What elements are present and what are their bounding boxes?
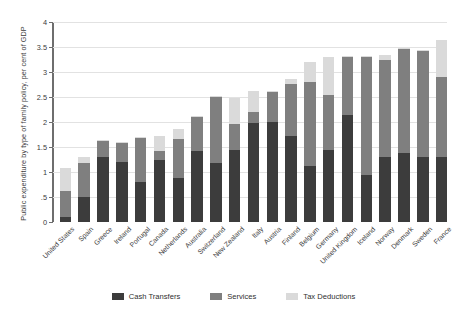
y-axis-tick-label: .5 bbox=[17, 193, 47, 202]
legend-label: Services bbox=[227, 292, 256, 301]
y-axis-tick-label: 2 bbox=[17, 118, 47, 127]
y-axis-tick-label: 1.5 bbox=[17, 143, 47, 152]
legend-swatch-cash bbox=[112, 293, 124, 300]
bar-finland[interactable] bbox=[285, 79, 297, 223]
legend-swatch-tax bbox=[286, 293, 298, 300]
x-axis-labels: United StatesSpainGreeceIrelandPortugalC… bbox=[52, 224, 447, 284]
bar-segment-services bbox=[285, 84, 297, 137]
bar-segment-tax bbox=[154, 136, 166, 151]
bar-denmark[interactable] bbox=[398, 48, 410, 222]
bar-segment-services bbox=[229, 124, 241, 150]
bar-greece[interactable] bbox=[97, 140, 109, 222]
bar-france[interactable] bbox=[436, 40, 448, 223]
bar-segment-cash bbox=[60, 217, 72, 222]
bar-segment-services bbox=[97, 141, 109, 157]
bar-segment-tax bbox=[248, 91, 260, 112]
bar-segment-tax bbox=[173, 129, 185, 139]
bar-segment-services bbox=[417, 51, 429, 157]
bar-belgium[interactable] bbox=[304, 62, 316, 222]
y-axis-tick-label: 3 bbox=[17, 68, 47, 77]
bar-segment-services bbox=[361, 57, 373, 175]
bar-segment-services bbox=[60, 191, 72, 217]
y-axis-tick-label: 0 bbox=[17, 218, 47, 227]
bar-segment-services bbox=[267, 92, 279, 122]
bar-segment-services bbox=[436, 77, 448, 157]
bar-sweden[interactable] bbox=[417, 50, 429, 222]
bar-segment-services bbox=[210, 97, 222, 163]
bar-segment-cash bbox=[267, 122, 279, 222]
legend-item-services[interactable]: Services bbox=[210, 292, 256, 301]
y-axis-tick-label: 3.5 bbox=[17, 43, 47, 52]
chart-legend: Cash TransfersServicesTax Deductions bbox=[0, 292, 467, 301]
legend-label: Tax Deductions bbox=[303, 292, 355, 301]
bar-united-kingdom[interactable] bbox=[342, 56, 354, 222]
bar-segment-services bbox=[248, 112, 260, 123]
bar-segment-tax bbox=[229, 98, 241, 124]
legend-item-tax-deductions[interactable]: Tax Deductions bbox=[286, 292, 355, 301]
y-axis-tick-label: 4 bbox=[17, 18, 47, 27]
bar-segment-services bbox=[173, 139, 185, 178]
y-axis-tick-label: 2.5 bbox=[17, 93, 47, 102]
bar-segment-services bbox=[78, 163, 90, 197]
bar-segment-tax bbox=[436, 40, 448, 78]
bar-segment-services bbox=[304, 82, 316, 166]
bar-united-states[interactable] bbox=[60, 168, 72, 222]
bar-germany[interactable] bbox=[323, 57, 335, 222]
bar-segment-services bbox=[342, 57, 354, 115]
bar-iceland[interactable] bbox=[361, 56, 373, 222]
bar-segment-tax bbox=[304, 62, 316, 82]
legend-label: Cash Transfers bbox=[129, 292, 181, 301]
legend-item-cash-transfers[interactable]: Cash Transfers bbox=[112, 292, 181, 301]
chart-container: Public expenditure by type of family pol… bbox=[0, 0, 467, 309]
y-axis-tick bbox=[49, 222, 53, 223]
bar-segment-services bbox=[154, 151, 166, 160]
bar-segment-tax bbox=[323, 57, 335, 95]
bar-segment-services bbox=[379, 60, 391, 158]
bar-segment-tax bbox=[60, 168, 72, 191]
bar-segment-services bbox=[116, 143, 128, 162]
bar-segment-services bbox=[398, 49, 410, 153]
bar-segment-services bbox=[323, 95, 335, 150]
bar-segment-services bbox=[135, 138, 147, 182]
legend-swatch-services bbox=[210, 293, 222, 300]
bar-segment-services bbox=[191, 117, 203, 151]
y-axis-tick-label: 1 bbox=[17, 168, 47, 177]
